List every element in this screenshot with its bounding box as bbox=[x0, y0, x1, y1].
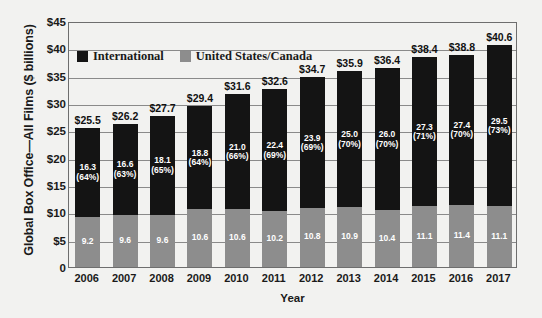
bar-group[interactable]: 10.618.8(64%)$29.4 bbox=[187, 106, 212, 267]
bar-segment-international[interactable]: 26.0(70%) bbox=[375, 68, 400, 210]
bar-group[interactable]: 10.823.9(69%)$34.7 bbox=[300, 77, 325, 267]
bar-label-united-states-canada: 11.1 bbox=[487, 232, 512, 242]
bar-label-international: 16.6(63%) bbox=[113, 160, 138, 179]
bar-segment-international[interactable]: 27.3(71%) bbox=[412, 57, 437, 206]
x-axis-tick-label: 2008 bbox=[142, 272, 182, 284]
bar-label-international: 18.8(64%) bbox=[187, 148, 212, 167]
legend-item-international: International bbox=[77, 49, 164, 64]
bar-segment-international[interactable]: 21.0(66%) bbox=[225, 94, 250, 209]
bar-group[interactable]: 11.427.4(70%)$38.8 bbox=[449, 55, 474, 267]
bar-total-label: $36.4 bbox=[366, 54, 409, 66]
bar-segment-international[interactable]: 22.4(69%) bbox=[262, 89, 287, 211]
bar-segment-international[interactable]: 16.6(63%) bbox=[113, 124, 138, 215]
bar-segment-united-states-canada[interactable]: 11.4 bbox=[449, 205, 474, 267]
x-axis-tick-label: 2009 bbox=[179, 272, 219, 284]
bar-segment-international[interactable]: 23.9(69%) bbox=[300, 77, 325, 208]
x-axis-tick-label: 2013 bbox=[329, 272, 369, 284]
y-axis-tick-label: $40 bbox=[28, 43, 66, 55]
bar-label-united-states-canada: 10.8 bbox=[300, 233, 325, 243]
bar-label-united-states-canada: 10.9 bbox=[337, 232, 362, 242]
bar-label-international: 27.3(71%) bbox=[412, 122, 437, 141]
x-axis-tick-label: 2010 bbox=[216, 272, 256, 284]
legend-swatch-united-states-canada-icon bbox=[180, 51, 191, 62]
bar-segment-united-states-canada[interactable]: 9.6 bbox=[113, 215, 138, 267]
bar-label-united-states-canada: 11.4 bbox=[449, 231, 474, 241]
legend-label-international: International bbox=[93, 49, 164, 64]
y-axis-tick-label: $20 bbox=[28, 153, 66, 165]
y-axis-tick-label: $25 bbox=[28, 125, 66, 137]
x-axis-tick-label: 2014 bbox=[366, 272, 406, 284]
bar-segment-united-states-canada[interactable]: 10.6 bbox=[225, 209, 250, 267]
bar-group[interactable]: 9.216.3(64%)$25.5 bbox=[75, 128, 100, 267]
bar-label-united-states-canada: 9.2 bbox=[75, 237, 100, 247]
bar-group[interactable]: 10.925.0(70%)$35.9 bbox=[337, 71, 362, 267]
bar-segment-united-states-canada[interactable]: 10.4 bbox=[375, 210, 400, 267]
legend-swatch-international-icon bbox=[77, 51, 88, 62]
bar-group[interactable]: 10.426.0(70%)$36.4 bbox=[375, 68, 400, 267]
y-axis-tick-labels: 0$5$10$15$20$25$30$35$40$45 bbox=[28, 22, 66, 268]
bar-segment-united-states-canada[interactable]: 9.2 bbox=[75, 217, 100, 267]
y-axis-tick-label: $45 bbox=[28, 16, 66, 28]
bar-label-international: 26.0(70%) bbox=[375, 130, 400, 149]
x-axis-tick-label: 2016 bbox=[441, 272, 481, 284]
x-axis-tick-labels: 2006200720082009201020112012201320142015… bbox=[68, 272, 517, 288]
bar-segment-international[interactable]: 25.0(70%) bbox=[337, 71, 362, 208]
bar-label-international: 25.0(70%) bbox=[337, 130, 362, 149]
y-axis-tick-label: $5 bbox=[28, 235, 66, 247]
x-axis-tick-label: 2012 bbox=[291, 272, 331, 284]
y-axis-tick-label: $15 bbox=[28, 180, 66, 192]
y-axis-tick-label: $10 bbox=[28, 207, 66, 219]
chart-legend: International United States/Canada bbox=[77, 49, 312, 64]
bar-segment-united-states-canada[interactable]: 10.6 bbox=[187, 209, 212, 267]
x-axis-tick-label: 2015 bbox=[403, 272, 443, 284]
bar-group[interactable]: 10.222.4(69%)$32.6 bbox=[262, 89, 287, 267]
bar-label-united-states-canada: 10.6 bbox=[225, 233, 250, 243]
bar-segment-united-states-canada[interactable]: 10.2 bbox=[262, 211, 287, 267]
bar-total-label: $40.6 bbox=[478, 31, 521, 43]
stacked-bar-chart: Global Box Office—All Films ($ billions)… bbox=[0, 0, 542, 318]
bar-total-label: $32.6 bbox=[253, 75, 296, 87]
bar-label-international: 27.4(70%) bbox=[449, 120, 474, 139]
bar-group[interactable]: 9.616.6(63%)$26.2 bbox=[113, 124, 138, 267]
bar-label-united-states-canada: 11.1 bbox=[412, 232, 437, 242]
x-axis-tick-label: 2006 bbox=[67, 272, 107, 284]
bar-group[interactable]: 11.129.5(73%)$40.6 bbox=[487, 45, 512, 267]
bar-label-international: 16.3(64%) bbox=[75, 163, 100, 182]
bar-segment-international[interactable]: 18.8(64%) bbox=[187, 106, 212, 209]
bar-label-international: 18.1(65%) bbox=[150, 156, 175, 175]
bar-label-united-states-canada: 9.6 bbox=[150, 236, 175, 246]
bar-group[interactable]: 11.127.3(71%)$38.4 bbox=[412, 57, 437, 267]
x-axis-tick-label: 2017 bbox=[478, 272, 518, 284]
bar-label-international: 21.0(66%) bbox=[225, 142, 250, 161]
legend-label-united-states-canada: United States/Canada bbox=[196, 49, 312, 64]
bar-segment-international[interactable]: 29.5(73%) bbox=[487, 45, 512, 206]
y-axis-tick-label: 0 bbox=[28, 262, 66, 274]
bar-group[interactable]: 9.618.1(65%)$27.7 bbox=[150, 116, 175, 267]
y-axis-tick-label: $35 bbox=[28, 71, 66, 83]
x-axis-tick-label: 2011 bbox=[254, 272, 294, 284]
bar-label-international: 29.5(73%) bbox=[487, 116, 512, 135]
bar-label-international: 22.4(69%) bbox=[262, 141, 287, 160]
bar-label-united-states-canada: 10.6 bbox=[187, 233, 212, 243]
x-axis-tick-label: 2007 bbox=[104, 272, 144, 284]
bar-segment-united-states-canada[interactable]: 9.6 bbox=[150, 215, 175, 267]
bar-segment-united-states-canada[interactable]: 10.8 bbox=[300, 208, 325, 267]
bar-label-international: 23.9(69%) bbox=[300, 133, 325, 152]
bar-label-united-states-canada: 10.4 bbox=[375, 234, 400, 244]
bar-segment-international[interactable]: 16.3(64%) bbox=[75, 128, 100, 217]
bar-segment-united-states-canada[interactable]: 11.1 bbox=[412, 206, 437, 267]
bar-label-united-states-canada: 9.6 bbox=[113, 236, 138, 246]
bar-segment-international[interactable]: 18.1(65%) bbox=[150, 116, 175, 215]
x-axis-title: Year bbox=[68, 292, 517, 304]
bar-label-united-states-canada: 10.2 bbox=[262, 234, 287, 244]
bar-segment-international[interactable]: 27.4(70%) bbox=[449, 55, 474, 205]
bar-group[interactable]: 10.621.0(66%)$31.6 bbox=[225, 94, 250, 267]
bar-segment-united-states-canada[interactable]: 10.9 bbox=[337, 207, 362, 267]
y-axis-tick-label: $30 bbox=[28, 98, 66, 110]
legend-item-united-states-canada: United States/Canada bbox=[180, 49, 312, 64]
bar-total-label: $29.4 bbox=[178, 92, 221, 104]
bar-segment-united-states-canada[interactable]: 11.1 bbox=[487, 206, 512, 267]
